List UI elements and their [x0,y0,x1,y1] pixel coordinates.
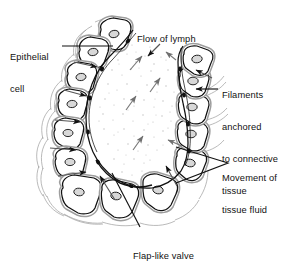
label-flap-line1: Flap-like valve [133,251,194,262]
label-movement-tissue-fluid: Movement of tissue fluid [222,152,277,237]
endothelial-cell [60,173,104,217]
nucleus [65,158,75,165]
label-epithelial-cell: Epithelial cell [10,31,49,116]
label-movement-line2: tissue fluid [222,205,277,216]
nucleus [67,100,78,108]
label-movement-line1: Movement of [222,173,277,184]
label-epithelial-line1: Epithelial [10,52,49,63]
nucleus [63,129,73,136]
label-flow-of-lymph: Flow of lymph [137,13,196,66]
nucleus [188,77,198,85]
label-filaments-line1: Filaments [222,90,278,101]
label-flap-like-valve: Flap-like valve [133,230,194,265]
label-flow-line1: Flow of lymph [137,34,196,45]
lymph-flow-arrows [126,56,160,150]
label-epithelial-line2: cell [10,84,49,95]
label-filaments-line2: anchored [222,122,278,133]
